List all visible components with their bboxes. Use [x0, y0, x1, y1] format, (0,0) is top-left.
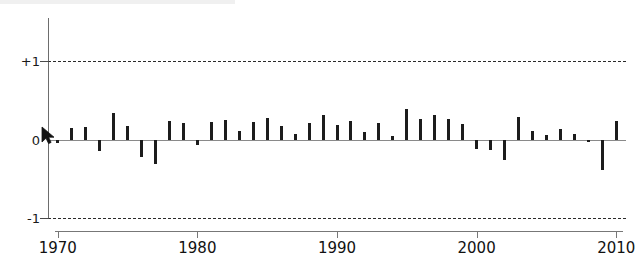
bar-1978	[168, 121, 171, 140]
x-axis-label-1970: 1970	[39, 241, 77, 256]
bar-2007	[573, 134, 576, 140]
x-tick-1970	[58, 231, 59, 238]
bar-1981	[210, 122, 213, 140]
bar-1972	[84, 127, 87, 140]
bar-2006	[559, 129, 562, 140]
bar-1987	[294, 134, 297, 140]
bar-2009	[601, 140, 604, 170]
bar-1988	[308, 123, 311, 140]
bar-1992	[363, 132, 366, 140]
bar-1996	[419, 119, 422, 140]
bar-1980	[196, 140, 199, 145]
x-axis-label-2000: 2000	[458, 241, 496, 256]
bar-1989	[322, 115, 325, 140]
bar-2010	[615, 121, 618, 140]
bar-1990	[336, 125, 339, 140]
bar-2005	[545, 135, 548, 140]
bar-1985	[266, 118, 269, 140]
bar-1984	[252, 122, 255, 140]
bar-1982	[224, 120, 227, 140]
plot-area: +1 0 -1 19701980199020002010	[0, 0, 642, 273]
bar-1976	[140, 140, 143, 157]
bar-1975	[126, 126, 129, 140]
bar-1973	[98, 140, 101, 151]
bar-2002	[503, 140, 506, 160]
bar-1986	[280, 126, 283, 140]
bar-1983	[238, 131, 241, 140]
bar-1979	[182, 123, 185, 140]
bar-1974	[112, 113, 115, 140]
bar-2008	[587, 140, 590, 142]
bar-1997	[433, 115, 436, 140]
x-axis-label-2010: 2010	[597, 241, 635, 256]
bar-2000	[475, 140, 478, 149]
bar-1977	[154, 140, 157, 164]
x-tick-2010	[616, 231, 617, 238]
bar-1993	[377, 123, 380, 140]
x-tick-1980	[197, 231, 198, 238]
x-axis-label-1980: 1980	[178, 241, 216, 256]
bar-2004	[531, 131, 534, 140]
bar-1970	[56, 140, 59, 143]
bar-1994	[391, 136, 394, 140]
x-tick-1990	[337, 231, 338, 238]
x-tick-2000	[477, 231, 478, 238]
bar-1991	[349, 121, 352, 140]
bar-1999	[461, 124, 464, 140]
bar-1995	[405, 109, 408, 140]
bar-series	[0, 0, 642, 273]
x-axis-label-1990: 1990	[318, 241, 356, 256]
bar-1998	[447, 119, 450, 140]
chart-root: +1 0 -1 19701980199020002010	[0, 0, 642, 273]
bar-1971	[70, 128, 73, 140]
bar-2001	[489, 140, 492, 150]
bar-2003	[517, 117, 520, 140]
